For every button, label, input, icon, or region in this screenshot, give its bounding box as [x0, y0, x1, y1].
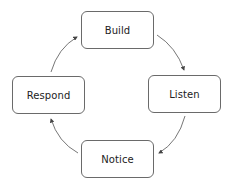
node-listen: Listen [148, 75, 221, 113]
node-listen-label: Listen [169, 89, 200, 100]
node-notice: Notice [81, 140, 154, 178]
cycle-diagram: Build Listen Notice Respond [0, 0, 232, 188]
node-build-label: Build [105, 25, 131, 36]
node-respond-label: Respond [27, 90, 71, 101]
node-build: Build [81, 11, 154, 49]
node-notice-label: Notice [101, 154, 134, 165]
arrow-notice-to-respond [51, 119, 78, 153]
arrow-respond-to-build [51, 37, 77, 72]
arrow-build-to-listen [157, 35, 184, 70]
node-respond: Respond [12, 76, 85, 114]
arrow-listen-to-notice [159, 116, 185, 153]
